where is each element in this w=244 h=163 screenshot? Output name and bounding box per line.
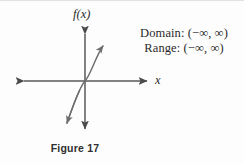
- range-annotation: Range: (−∞, ∞): [128, 41, 240, 56]
- y-axis-label: f(x): [73, 7, 90, 22]
- domain-range-annotations: Domain: (−∞, ∞) Range: (−∞, ∞): [128, 26, 240, 56]
- cubic-curve-lower-branch: [67, 91, 80, 124]
- domain-annotation: Domain: (−∞, ∞): [128, 26, 240, 41]
- figure-caption: Figure 17: [0, 142, 150, 154]
- x-axis-label: x: [155, 73, 161, 88]
- cubic-function-graph: [0, 0, 244, 163]
- figure-container: f(x) x Domain: (−∞, ∞) Range: (−∞, ∞) Fi…: [0, 0, 244, 163]
